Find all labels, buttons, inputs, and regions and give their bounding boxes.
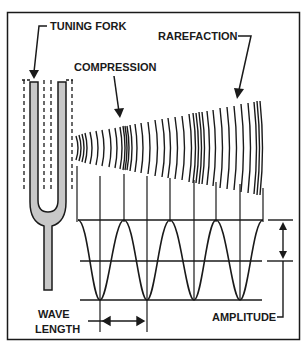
rarefaction-label: RAREFACTION <box>158 30 238 42</box>
sound-wave-fronts <box>76 101 263 195</box>
sound-wave-diagram: TUNING FORK COMPRESSION RAREFACTION <box>0 0 307 343</box>
tuning-fork-label: TUNING FORK <box>50 20 126 32</box>
amplitude-label: AMPLITUDE <box>212 311 276 323</box>
wavelength-label-line2: LENGTH <box>35 323 80 335</box>
compression-label: COMPRESSION <box>74 61 157 73</box>
waveform-graph <box>77 166 263 332</box>
tuning-fork <box>22 80 73 290</box>
rarefaction-leader <box>238 36 251 90</box>
arrowhead-icon <box>114 108 124 118</box>
arrowhead-icon <box>29 70 39 79</box>
arrowhead-icon <box>234 88 244 99</box>
wavelength-arrow <box>88 317 144 325</box>
tuning-fork-leader <box>34 26 47 72</box>
wavelength-label-line1: WAVE <box>38 308 70 320</box>
compression-leader <box>114 76 119 112</box>
amplitude-indicator <box>267 220 293 317</box>
